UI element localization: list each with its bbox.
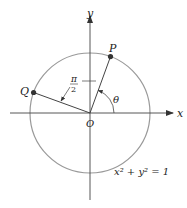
x-axis-label: x <box>177 107 184 120</box>
radius-oq <box>34 93 90 114</box>
point-p-label: P <box>108 42 117 55</box>
origin-label: O <box>86 118 94 129</box>
radius-op <box>90 57 111 113</box>
point-q-label: Q <box>20 85 29 98</box>
theta-label: θ <box>113 94 119 105</box>
circle-equation: x² + y² = 1 <box>114 166 169 177</box>
unit-circle-diagram: y x O P Q θ π 2 x² + y² = 1 <box>0 0 187 208</box>
y-axis-label: y <box>86 7 94 20</box>
pi-over-2-label: π 2 <box>70 74 78 94</box>
svg-text:2: 2 <box>71 85 76 94</box>
svg-text:π: π <box>70 74 78 84</box>
right-angle-arrow <box>61 87 70 101</box>
point-q <box>31 90 36 95</box>
theta-arc <box>98 90 114 113</box>
